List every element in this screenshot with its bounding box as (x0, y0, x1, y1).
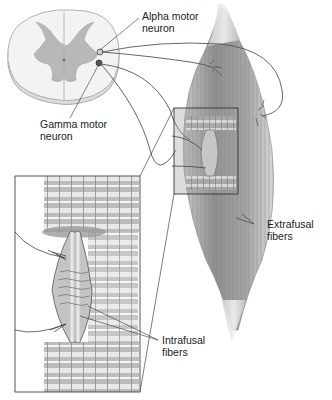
label-alpha-line1: Alpha motor (142, 10, 199, 22)
label-gamma-line1: Gamma motor (40, 118, 107, 130)
spindle-locator-box (172, 108, 238, 194)
gamma-motor-neuron-body (96, 60, 102, 66)
spinal-cord-cross-section (8, 10, 119, 105)
lower-tendon (222, 300, 246, 342)
label-extrafusal-fibers: Extrafusal fibers (267, 218, 314, 242)
upper-tendon (208, 4, 240, 46)
magnified-inset (15, 176, 140, 392)
label-alpha-motor-neuron: Alpha motor neuron (142, 10, 199, 34)
label-alpha-line2: neuron (142, 22, 199, 34)
label-extrafusal-line2: fibers (267, 230, 314, 242)
label-extrafusal-line1: Extrafusal (267, 218, 314, 230)
label-gamma-motor-neuron: Gamma motor neuron (40, 118, 107, 142)
label-intrafusal-line2: fibers (162, 346, 205, 358)
label-intrafusal-line1: Intrafusal (162, 334, 205, 346)
label-gamma-line2: neuron (40, 130, 107, 142)
label-intrafusal-fibers: Intrafusal fibers (162, 334, 205, 358)
